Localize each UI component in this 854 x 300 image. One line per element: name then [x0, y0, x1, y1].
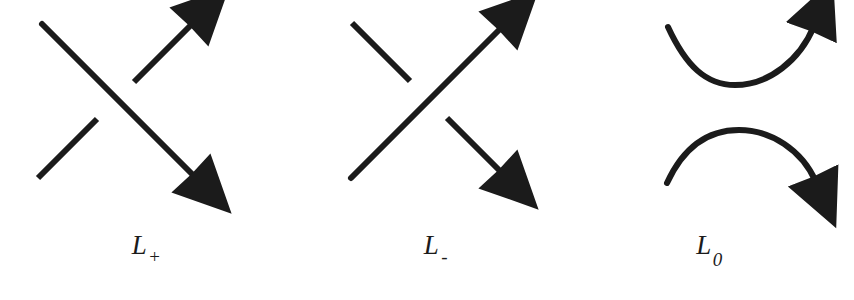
skein-relation-figure: L+ L-	[0, 0, 854, 300]
diagram-panel-l-plus: L+	[0, 0, 290, 300]
caption-l-zero: L0	[564, 232, 854, 263]
caption-subscript-l-zero: 0	[713, 249, 723, 270]
caption-subscript-l-minus: -	[441, 246, 448, 267]
caption-base-l-plus: L	[132, 230, 148, 260]
crossing-diagram-l-minus	[290, 0, 580, 230]
caption-base-l-minus: L	[424, 230, 440, 260]
upper-curve-valley	[668, 26, 814, 85]
crossing-diagram-l-plus	[0, 0, 290, 230]
caption-base-l-zero: L	[696, 230, 712, 260]
smoothing-diagram-l-zero	[564, 0, 854, 230]
caption-l-plus: L+	[0, 232, 290, 263]
lower-curve-hill	[667, 130, 816, 183]
diagram-panel-l-zero: L0	[564, 0, 854, 300]
diagram-panel-l-minus: L-	[290, 0, 580, 300]
caption-subscript-l-plus: +	[149, 246, 160, 267]
caption-l-minus: L-	[290, 232, 580, 263]
